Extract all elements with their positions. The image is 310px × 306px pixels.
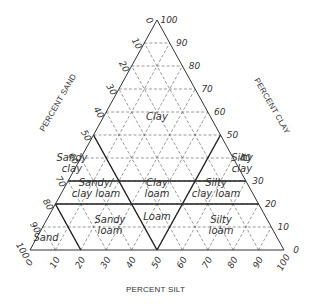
tick-clay: 50 — [227, 130, 239, 140]
tick-clay: 90 — [176, 38, 188, 48]
region-label-clay-loam: Clayloam — [145, 177, 170, 199]
region-label-silty-clay: Siltyclay — [231, 152, 254, 174]
region-label-sandy-clay: Sandyclay — [56, 152, 88, 174]
region-label-line: loam — [209, 225, 234, 236]
axis-title-sand: PERCENT SAND — [38, 72, 78, 133]
tick-silt: 40 — [124, 255, 139, 270]
tick-sand: 10 — [130, 36, 145, 51]
region-label-line: Clay — [146, 177, 169, 188]
region-label-line: Sand — [33, 232, 59, 243]
soil-texture-triangle: 0001010102020203030304040405050506060607… — [0, 0, 310, 306]
tick-sand: 20 — [117, 59, 132, 74]
tick-sand: 0 — [144, 16, 156, 26]
tick-silt: 50 — [149, 255, 164, 270]
tick-clay: 60 — [214, 107, 226, 117]
tick-clay: 0 — [293, 245, 299, 255]
region-label-line: Silty — [205, 177, 228, 188]
tick-clay: 70 — [201, 84, 213, 94]
region-label-line: loam — [98, 225, 123, 236]
tick-silt: 80 — [225, 255, 240, 270]
tick-clay: 80 — [189, 61, 201, 71]
tick-sand: 70 — [54, 174, 69, 189]
tick-silt: 20 — [73, 255, 88, 270]
region-label-line: clay — [62, 163, 83, 174]
region-label-loam: Loam — [143, 211, 171, 222]
region-label-line: Sandy — [56, 152, 88, 163]
axis-title-silt: PERCENT SILT — [126, 285, 185, 294]
region-label-line: Clay — [146, 111, 169, 122]
tick-silt: 90 — [251, 255, 266, 270]
tick-sand: 30 — [104, 82, 119, 97]
region-label-line: Silty — [231, 152, 254, 163]
tick-sand: 80 — [41, 197, 56, 212]
region-label-silty-clay-loam: Siltyclay loam — [192, 177, 241, 199]
tick-clay: 20 — [265, 199, 277, 209]
region-label-sandy-clay-loam: Sandy/clay loam — [72, 177, 121, 199]
tick-silt: 70 — [200, 255, 215, 270]
region-label-sand: Sand — [33, 232, 59, 243]
axis-title-clay: PERCENT CLAY — [252, 77, 292, 136]
tick-clay: 100 — [160, 15, 177, 25]
region-label-silty-loam: Siltyloam — [209, 214, 234, 236]
region-label-line: Sandy/ — [79, 177, 115, 188]
tick-sand: 100 — [14, 241, 31, 261]
tick-clay: 30 — [252, 176, 264, 186]
region-label-clay: Clay — [146, 111, 169, 122]
region-label-line: Sandy — [94, 214, 126, 225]
region-label-line: clay loam — [192, 188, 241, 199]
region-label-line: clay — [232, 163, 253, 174]
tick-silt: 30 — [98, 255, 113, 270]
region-label-line: Silty — [210, 214, 233, 225]
region-label-line: Loam — [143, 211, 171, 222]
region-label-line: clay loam — [72, 188, 121, 199]
region-label-sandy-loam: Sandyloam — [94, 214, 126, 236]
tick-sand: 40 — [92, 105, 107, 120]
tick-silt: 60 — [175, 255, 190, 270]
grid-line-silt — [259, 227, 272, 250]
tick-silt: 100 — [275, 252, 292, 272]
tick-silt: 0 — [24, 257, 36, 267]
tick-silt: 10 — [48, 255, 63, 270]
tick-clay: 10 — [278, 222, 290, 232]
tick-sand: 50 — [79, 128, 94, 143]
region-label-line: loam — [145, 188, 170, 199]
